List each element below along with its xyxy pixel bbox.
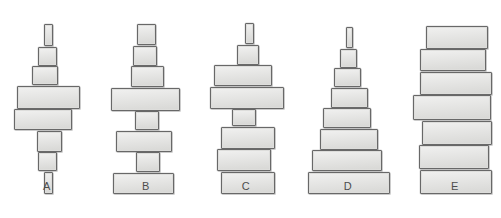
block-d-4: [331, 88, 368, 108]
block-d-1: [346, 27, 353, 48]
block-e-6: [419, 145, 489, 169]
block-c-3: [214, 65, 272, 86]
block-a-4: [17, 86, 80, 109]
block-c-1: [245, 23, 254, 44]
block-e-3: [420, 72, 492, 95]
block-stack-b: [91, 12, 201, 194]
block-d-2: [340, 49, 357, 68]
block-c-5: [232, 109, 256, 126]
block-c-7: [217, 149, 271, 171]
block-a-6: [37, 131, 62, 152]
block-b-4: [111, 88, 180, 111]
block-a-5: [14, 109, 72, 130]
block-a-1: [44, 24, 53, 46]
block-d-3: [334, 68, 361, 87]
block-c-4: [210, 87, 284, 109]
block-e-1: [426, 26, 488, 49]
block-e-5: [422, 121, 492, 145]
block-a-2: [38, 47, 57, 66]
block-stack-d: [293, 12, 403, 194]
block-stack-c: [191, 12, 301, 194]
block-e-2: [420, 49, 486, 71]
figure-sheet: A B C D E: [0, 0, 501, 218]
block-a-3: [32, 66, 58, 85]
block-c-2: [237, 45, 259, 65]
figure-label-c: C: [191, 180, 301, 192]
block-b-6: [116, 131, 172, 152]
block-stack-a: [0, 12, 102, 194]
figure-option-c[interactable]: C: [191, 6, 301, 194]
block-b-5: [135, 111, 159, 130]
figure-option-a[interactable]: A: [0, 6, 102, 194]
figure-label-b: B: [91, 180, 201, 192]
block-e-4: [413, 95, 491, 120]
figure-option-b[interactable]: B: [91, 6, 201, 194]
block-c-6: [221, 127, 275, 149]
block-b-1: [137, 24, 156, 45]
figure-option-d[interactable]: D: [293, 6, 403, 194]
figure-option-e[interactable]: E: [400, 6, 501, 194]
block-b-3: [131, 66, 164, 87]
block-stack-e: [400, 12, 501, 194]
clipped-header-text: [8, 0, 158, 3]
figure-label-d: D: [293, 180, 403, 192]
block-d-5: [323, 108, 371, 128]
block-d-6: [320, 129, 378, 150]
figure-label-a: A: [0, 180, 102, 192]
block-b-7: [136, 152, 160, 172]
figure-label-e: E: [400, 180, 501, 192]
block-b-2: [133, 46, 157, 66]
block-a-7: [38, 152, 57, 171]
block-d-7: [312, 150, 382, 171]
